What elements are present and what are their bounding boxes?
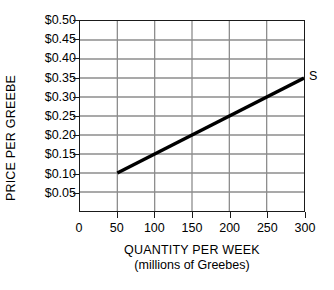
y-tick-label: $0.30 [28,91,76,103]
y-tick-label: $0.25 [28,110,76,122]
x-axis-title-main: QUANTITY PER WEEK [79,243,305,258]
y-tick-mark [73,154,79,155]
y-tick-mark [73,78,79,79]
y-tick-mark [73,39,79,40]
x-tick-mark [230,212,231,218]
y-tick-label: $0.35 [28,72,76,84]
y-tick-mark [73,20,79,21]
x-tick-mark [192,212,193,218]
x-tick-mark [305,212,306,218]
y-tick-mark [73,193,79,194]
series-lines [117,78,304,173]
y-tick-label: $0.05 [28,187,76,199]
y-tick-mark [73,58,79,59]
plot-svg [80,21,304,211]
x-tick-mark [117,212,118,218]
y-tick-label: $0.45 [28,33,76,45]
x-axis-tick-labels: 050100150200250300 [0,221,334,239]
y-tick-label: $0.10 [28,168,76,180]
x-tick-mark [267,212,268,218]
y-tick-label: $0.15 [28,148,76,160]
y-tick-mark [73,97,79,98]
x-tick-mark [154,212,155,218]
x-tick-label: 300 [283,221,327,235]
y-tick-mark [73,116,79,117]
y-axis-title: PRICE PER GREEBE [0,42,22,234]
y-tick-mark [73,174,79,175]
y-tick-label: $0.40 [28,52,76,64]
plot-area [79,20,305,212]
series-line-s [117,78,304,173]
supply-curve-chart: PRICE PER GREEBE $0.05$0.10$0.15$0.20$0.… [0,0,334,290]
y-tick-mark [73,135,79,136]
series-label-supply: S [309,69,317,83]
x-axis-title-sub: (millions of Greebes) [79,258,305,273]
y-axis-tick-labels: $0.05$0.10$0.15$0.20$0.25$0.30$0.35$0.40… [28,20,76,212]
x-axis-title: QUANTITY PER WEEK (millions of Greebes) [79,243,305,273]
y-tick-label: $0.50 [28,14,76,26]
y-tick-label: $0.20 [28,129,76,141]
